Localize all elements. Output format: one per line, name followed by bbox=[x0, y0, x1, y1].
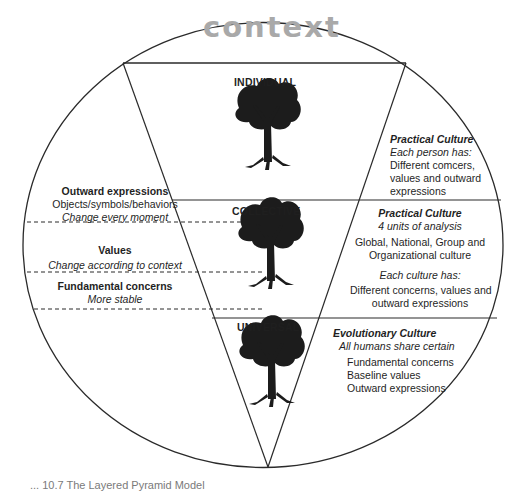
collective-line: Global, National, Group and bbox=[350, 236, 490, 249]
values-line1: Change according to context bbox=[30, 259, 200, 272]
collective-line: Organizational culture bbox=[350, 249, 490, 262]
individual-subtitle: Each person has: bbox=[390, 146, 481, 159]
collective-title: Practical Culture bbox=[350, 207, 490, 220]
fundamental-line1: More stable bbox=[30, 293, 200, 306]
universal-title: Evolutionary Culture bbox=[333, 327, 455, 340]
fundamental-concerns-block: Fundamental concerns More stable bbox=[30, 280, 200, 306]
values-title: Values bbox=[30, 244, 200, 257]
level-label-individual: INDIVIDUAL bbox=[234, 76, 296, 88]
figure-caption: ... 10.7 The Layered Pyramid Model bbox=[30, 479, 205, 491]
level-label-universal: UNIVERSAL bbox=[237, 321, 299, 333]
outward-line2: Change every moment bbox=[30, 211, 200, 224]
individual-title: Practical Culture bbox=[390, 133, 481, 146]
tree-icon-individual bbox=[235, 78, 300, 170]
universal-line: Outward expressions bbox=[333, 382, 455, 395]
individual-line: Different comcers, bbox=[390, 159, 481, 172]
individual-description: Practical Culture Each person has: Diffe… bbox=[390, 133, 481, 198]
outward-title: Outward expressions bbox=[30, 185, 200, 198]
individual-line: values and outward bbox=[390, 172, 481, 185]
universal-description: Evolutionary Culture All humans share ce… bbox=[333, 327, 455, 395]
collective-subtitle: 4 units of analysis bbox=[350, 220, 490, 233]
collective-line2: outward expressions bbox=[350, 297, 490, 310]
fundamental-title: Fundamental concerns bbox=[30, 280, 200, 293]
universal-line: Fundamental concerns bbox=[333, 356, 455, 369]
level-label-collective: COLLECTIVE bbox=[232, 205, 301, 217]
individual-line: expressions bbox=[390, 185, 481, 198]
values-block: Values Change according to context bbox=[30, 244, 200, 272]
collective-subtitle2: Each culture has: bbox=[350, 269, 490, 282]
outward-expressions-block: Outward expressions Objects/symbols/beha… bbox=[30, 185, 200, 224]
universal-subtitle: All humans share certain bbox=[333, 340, 455, 353]
outward-line1: Objects/symbols/behaviors bbox=[30, 198, 200, 211]
context-label: context bbox=[203, 10, 341, 44]
universal-line: Baseline values bbox=[333, 369, 455, 382]
collective-line2: Different concerns, values and bbox=[350, 284, 490, 297]
collective-description: Practical Culture 4 units of analysis Gl… bbox=[350, 207, 490, 310]
